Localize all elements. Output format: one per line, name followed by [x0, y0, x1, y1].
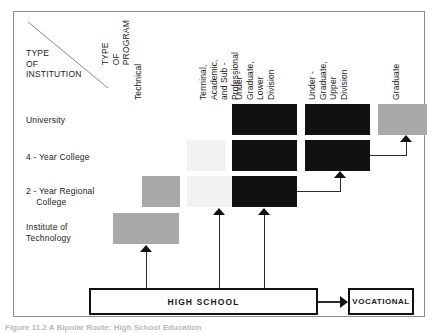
arrow-4yr-to-university	[400, 135, 412, 142]
figure-caption: Figure 11.2 A Bipolar Route: High School…	[5, 323, 435, 333]
vocational-box: VOCATIONAL	[348, 288, 414, 315]
high-school-box: HIGH SCHOOL	[89, 288, 318, 315]
cell-four-year-college-terminal	[187, 140, 225, 171]
cell-four-year-college-undergrad-lower	[232, 140, 297, 171]
cell-institute-of-technology-technical	[113, 213, 179, 244]
cell-two-year-regional-technical	[142, 176, 180, 207]
cell-four-year-college-undergrad-upper	[305, 140, 370, 171]
cell-university-undergrad-upper	[305, 104, 370, 135]
arrow-2yr-to-4yr	[334, 171, 346, 178]
row-label-four-year-college: 4 - Year College	[26, 152, 90, 163]
connector-4yr-to-university-vertical	[406, 142, 407, 156]
arrow-highschool-to-2yr-lower	[258, 208, 270, 215]
column-headers: Technical Terminal, Academic, and Sub - …	[0, 18, 439, 100]
row-label-institute-of-technology: Institute of Technology	[26, 222, 71, 243]
connector-highschool-to-2yr-terminal	[219, 215, 220, 288]
figure-root: TYPE OF INSTITUTION TYPE OF PROGRAM Tech…	[0, 0, 439, 333]
row-label-two-year-regional: 2 - Year Regional College	[26, 186, 95, 207]
vocational-label: VOCATIONAL	[352, 297, 409, 306]
cell-two-year-regional-undergrad-lower	[232, 176, 297, 207]
arrow-highschool-to-institute	[140, 245, 152, 252]
connector-highschool-to-institute	[146, 252, 147, 288]
row-label-university: University	[26, 115, 65, 126]
connector-2yr-to-4yr-horizontal	[297, 191, 340, 192]
arrow-highschool-to-2yr-terminal	[213, 208, 225, 215]
column-header-undergrad-lower: Under - Graduate, Lower Division	[234, 18, 276, 100]
cell-university-graduate	[378, 104, 427, 135]
high-school-label: HIGH SCHOOL	[167, 297, 239, 307]
arrow-highschool-to-vocational	[340, 296, 348, 308]
cell-university-undergrad-lower	[232, 104, 297, 135]
column-header-technical: Technical	[133, 18, 144, 100]
column-header-graduate: Graduate	[391, 18, 402, 100]
connector-4yr-to-university-horizontal	[370, 155, 407, 156]
connector-2yr-to-4yr-vertical	[340, 178, 341, 192]
column-header-undergrad-upper: Under - Graduate, Upper Division	[307, 18, 349, 100]
connector-highschool-to-2yr-lower	[264, 215, 265, 288]
